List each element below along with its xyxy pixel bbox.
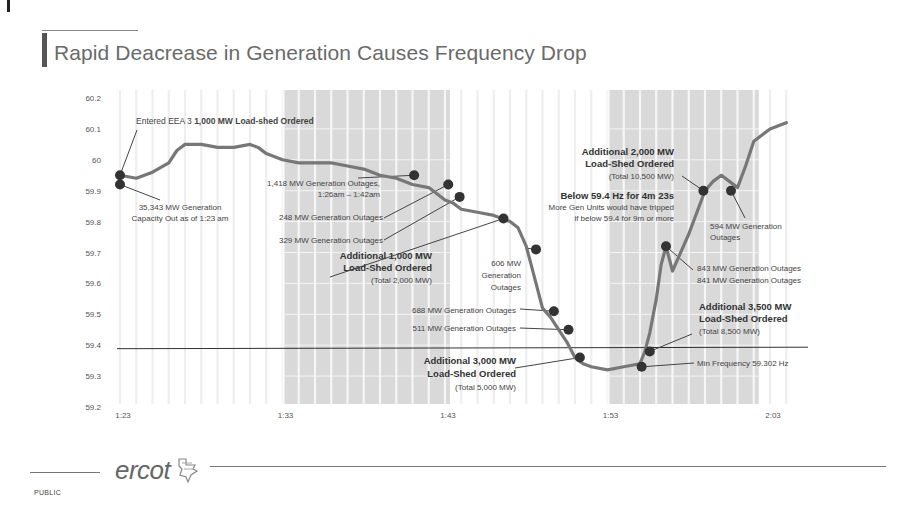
event-marker <box>115 180 125 190</box>
annotation-leader <box>120 185 160 200</box>
x-tick-label: 2:03 <box>765 411 781 420</box>
x-tick-label: 1:23 <box>115 411 131 420</box>
annotation-text: 248 MW Generation Outages <box>279 213 383 222</box>
annotation-text: (Total 2,000 MW) <box>371 276 432 285</box>
annotation-text: if below 59.4 for 9m or more <box>574 214 674 223</box>
annotation-text: Capacity Out as of 1:23 am <box>132 214 229 223</box>
annotation-text: Generation <box>481 271 521 280</box>
annotation-bold-text: Load-Shed Ordered <box>585 158 674 169</box>
y-tick-label: 60.1 <box>85 125 101 134</box>
y-tick-label: 60 <box>92 156 101 165</box>
y-tick-label: 60.2 <box>85 94 101 103</box>
annotation-text: 843 MW Generation Outages <box>697 264 801 273</box>
event-marker <box>443 180 453 190</box>
annotation-bold-text: Additional 2,000 MW <box>582 146 674 157</box>
event-marker <box>575 353 585 363</box>
x-tick-label: 1:53 <box>603 411 619 420</box>
annotation-leader <box>120 130 137 175</box>
y-tick-label: 59.9 <box>85 187 101 196</box>
event-marker <box>661 241 671 251</box>
annotation-text: 594 MW Generation <box>710 222 782 231</box>
annotation-text: (Total 10,500 MW) <box>609 172 675 181</box>
annotation-text: 511 MW Generation Outages <box>413 324 516 333</box>
y-tick-label: 59.3 <box>85 372 101 381</box>
annotation-text: (Total 5,000 MW) <box>455 383 516 392</box>
event-marker <box>645 346 655 356</box>
event-marker <box>564 325 574 335</box>
annotation-text: 1,418 MW Generation Outages, <box>267 179 380 188</box>
y-tick-label: 59.5 <box>85 310 101 319</box>
annotation-text: 841 MW Generation Outages <box>697 276 801 285</box>
annotation-text: 688 MW Generation Outages <box>412 306 516 315</box>
y-tick-label: 59.8 <box>85 218 101 227</box>
event-marker <box>698 186 708 196</box>
annotation-leader <box>515 358 580 368</box>
annotation-text: More Gen Units would have tripped <box>549 203 674 212</box>
y-tick-label: 59.4 <box>85 341 101 350</box>
annotation-text: Outages <box>710 233 740 242</box>
annotation-text: 606 MW <box>491 259 521 268</box>
annotation-text: Outages <box>491 283 521 292</box>
annotation-leader <box>520 309 554 311</box>
frequency-chart: 60.260.16059.959.859.759.659.559.459.359… <box>0 0 913 515</box>
ercot-logo: ercot <box>115 455 170 486</box>
annotation-text: Min Frequency 59.302 Hz <box>697 359 789 368</box>
footer-rule-left <box>30 472 100 473</box>
footer-rule-right <box>210 466 886 467</box>
event-marker <box>531 244 541 254</box>
y-tick-label: 59.6 <box>85 279 101 288</box>
annotation-eea3: Entered EEA 3 1,000 MW Load-shed Ordered <box>136 116 314 126</box>
annotation-bold-text: Below 59.4 Hz for 4m 23s <box>560 190 674 201</box>
y-axis: 60.260.16059.959.859.759.659.559.459.359… <box>85 94 101 412</box>
x-tick-label: 1:43 <box>440 411 456 420</box>
annotation-bold-text: Load-Shed Ordered <box>427 368 516 379</box>
event-marker <box>115 170 125 180</box>
annotation-bold-text: Load-Shed Ordered <box>343 262 432 273</box>
classification-label: PUBLIC <box>34 489 61 496</box>
annotation-bold-text: Load-Shed Ordered <box>699 313 788 324</box>
event-marker <box>455 192 465 202</box>
event-marker <box>637 362 647 372</box>
event-marker <box>409 170 419 180</box>
event-marker <box>499 214 509 224</box>
texas-flag-icon <box>176 455 200 485</box>
event-marker <box>726 186 736 196</box>
event-marker <box>549 306 559 316</box>
x-tick-label: 1:33 <box>278 411 294 420</box>
annotation-bold-text: Additional 3,000 MW <box>424 355 516 366</box>
annotation-bold-text: Additional 3,500 MW <box>699 301 791 312</box>
annotation-bold-text: Additional 1,000 MW <box>340 250 432 261</box>
y-tick-label: 59.7 <box>85 249 101 258</box>
annotation-text: 329 MW Generation Outages <box>279 236 383 245</box>
x-axis: 1:231:331:431:532:03 <box>115 411 781 420</box>
annotation-text: 35,343 MW Generation <box>139 203 222 212</box>
annotation-text: 1:26am – 1:42am <box>318 190 381 199</box>
shaded-regions <box>285 90 759 404</box>
y-tick-label: 59.2 <box>85 403 101 412</box>
annotation-text: (Total 8,500 MW) <box>699 327 760 336</box>
